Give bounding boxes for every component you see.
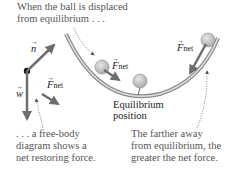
- caption-right-line2: from equilibrium, the: [131, 140, 221, 152]
- weight-label: →w: [16, 88, 23, 99]
- caption-right-line3: greater the net force.: [131, 152, 218, 164]
- ball-right: [201, 33, 215, 47]
- caption-left-line2: diagram shows a: [16, 140, 87, 152]
- caption-left-line3: net restoring force.: [16, 152, 96, 164]
- caption-right-line1: The farther away: [131, 128, 203, 140]
- ball-equilibrium: [133, 74, 147, 88]
- caption-top-line2: from equilibrium . . .: [17, 13, 105, 25]
- equilibrium-tick: [138, 88, 140, 95]
- normal-force-label: →n: [31, 43, 36, 54]
- fnet-label-left-ball: →Fnet: [112, 60, 128, 72]
- fnet-label-free-body: →Fnet: [47, 79, 63, 91]
- callout-right: [197, 71, 207, 128]
- fnet-vector-free-body: [42, 94, 58, 104]
- fnet-label-right-ball: →Fnet: [177, 42, 193, 54]
- caption-top-line1: When the ball is displaced: [17, 1, 128, 13]
- caption-left-line1: . . . a free-body: [16, 128, 80, 140]
- equilibrium-label-line2: position: [113, 110, 147, 122]
